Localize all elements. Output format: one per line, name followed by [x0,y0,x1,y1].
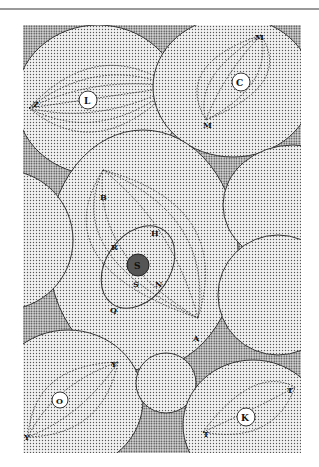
label-K: K [241,413,250,423]
label-Y-top: Y [110,359,117,369]
label-R: R [111,242,118,252]
label-O: O [56,396,63,406]
label-Y-bottom: Y [23,432,30,442]
label-L: L [84,96,91,106]
label-S-center: S [134,261,141,271]
label-M-bottom: M [203,120,212,130]
label-Z-left: Z [33,99,39,109]
label-C: C [236,78,243,88]
label-T-right: T [287,385,293,395]
label-M-top: M [255,32,264,42]
label-B: B [100,192,107,202]
label-N: N [155,279,162,289]
label-H: H [151,228,159,238]
label-T-lower: T [203,429,209,439]
top-rule [0,8,319,10]
vortex-engraving: L Z Z C M M S B H R S N Q A [23,25,301,453]
label-S-lower: S [133,279,139,289]
label-A: A [192,333,200,343]
label-Q: Q [110,305,117,315]
